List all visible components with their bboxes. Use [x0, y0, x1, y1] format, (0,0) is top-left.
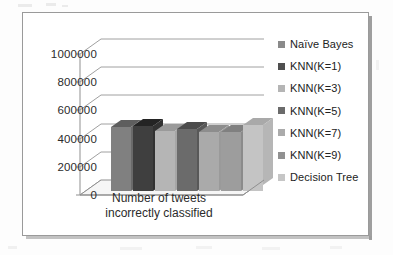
- legend-swatch-icon: [278, 41, 285, 48]
- chart-frame: 1000000 800000 600000 400000 200000 0 Nu…: [22, 12, 369, 236]
- legend-item-label: KNN(K=9): [290, 149, 341, 161]
- x-axis-title-line2: incorrectly classified: [69, 206, 249, 221]
- legend-swatch-icon: [278, 174, 285, 181]
- legend-item-decision-tree[interactable]: Decision Tree: [278, 166, 374, 188]
- legend-item-knn-k3[interactable]: KNN(K=3): [278, 77, 374, 99]
- legend-item-naive-bayes[interactable]: Naïve Bayes: [278, 33, 374, 55]
- legend-item-knn-k7[interactable]: KNN(K=7): [278, 122, 374, 144]
- x-axis-title: Number of tweets incorrectly classified: [69, 191, 249, 221]
- y-tick-label: 400000: [25, 133, 97, 145]
- y-tick-label: 1000000: [25, 48, 97, 60]
- legend-swatch-icon: [278, 152, 285, 159]
- y-tick-label: 800000: [25, 76, 97, 88]
- y-tick-label: 600000: [25, 104, 97, 116]
- legend-item-label: KNN(K=3): [290, 82, 341, 94]
- chart-plot-area: 1000000 800000 600000 400000 200000 0 Nu…: [23, 13, 370, 237]
- legend-item-label: KNN(K=1): [290, 60, 341, 72]
- legend-swatch-icon: [278, 129, 285, 136]
- x-axis-title-line1: Number of tweets: [69, 191, 249, 206]
- legend-item-knn-k5[interactable]: KNN(K=5): [278, 100, 374, 122]
- legend-item-knn-k1[interactable]: KNN(K=1): [278, 55, 374, 77]
- legend-item-label: Decision Tree: [290, 171, 359, 183]
- legend-swatch-icon: [278, 107, 285, 114]
- legend-item-knn-k9[interactable]: KNN(K=9): [278, 144, 374, 166]
- legend-item-label: KNN(K=7): [290, 127, 341, 139]
- chart-legend: Naïve Bayes KNN(K=1) KNN(K=3) KNN(K=5) K…: [278, 33, 374, 188]
- legend-item-label: KNN(K=5): [290, 105, 341, 117]
- y-tick-label: 200000: [25, 161, 97, 173]
- legend-swatch-icon: [278, 63, 285, 70]
- legend-swatch-icon: [278, 85, 285, 92]
- legend-item-label: Naïve Bayes: [290, 38, 353, 50]
- bar-decision-tree: [243, 118, 273, 191]
